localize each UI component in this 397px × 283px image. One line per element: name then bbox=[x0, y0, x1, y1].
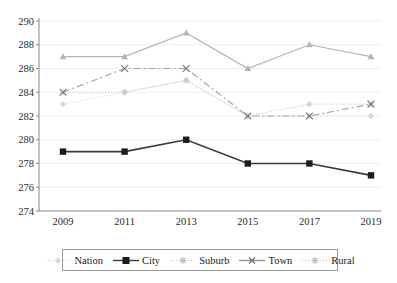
x-tick-label: 2017 bbox=[299, 216, 320, 227]
x-tick-label: 2009 bbox=[53, 216, 74, 227]
data-point-square bbox=[121, 148, 127, 154]
legend-item-rural[interactable]: Rural bbox=[297, 255, 359, 266]
y-tick-label: 280 bbox=[18, 134, 34, 145]
plot-area: 290288286284282280278276274 200920112013… bbox=[0, 0, 397, 240]
gridlines bbox=[39, 21, 381, 187]
legend-swatch-city bbox=[113, 255, 139, 266]
y-axis-ticks: 290288286284282280278276274 bbox=[18, 16, 39, 217]
data-point-square bbox=[245, 160, 251, 166]
legend-item-city[interactable]: City bbox=[108, 255, 165, 266]
x-tick-label: 2011 bbox=[114, 216, 135, 227]
y-tick-label: 290 bbox=[18, 16, 34, 27]
data-point-diamond bbox=[368, 113, 374, 119]
y-tick-label: 274 bbox=[18, 206, 35, 217]
y-tick-label: 284 bbox=[18, 87, 35, 98]
series-line-city bbox=[63, 140, 371, 176]
legend-item-suburb[interactable]: Suburb bbox=[165, 255, 234, 266]
x-tick-label: 2015 bbox=[237, 216, 258, 227]
chart-legend: Nation City Suburb bbox=[62, 249, 338, 271]
data-point-square bbox=[60, 148, 66, 154]
legend-label-city: City bbox=[142, 255, 160, 266]
series-line-rural bbox=[63, 33, 371, 69]
legend-swatch-nation bbox=[45, 255, 71, 266]
legend-label-rural: Rural bbox=[331, 255, 354, 266]
data-point-square bbox=[368, 172, 374, 178]
legend-label-town: Town bbox=[268, 255, 292, 266]
legend-item-nation[interactable]: Nation bbox=[40, 255, 108, 266]
y-tick-label: 282 bbox=[18, 111, 34, 122]
legend-item-town[interactable]: Town bbox=[234, 255, 297, 266]
series-line-suburb bbox=[63, 80, 371, 116]
data-point-diamond bbox=[60, 101, 66, 107]
legend-swatch-suburb bbox=[170, 255, 196, 266]
x-tick-label: 2013 bbox=[176, 216, 197, 227]
x-axis-ticks: 200920112013201520172019 bbox=[53, 216, 382, 227]
y-tick-label: 278 bbox=[18, 158, 34, 169]
chart-canvas: 290288286284282280278276274 200920112013… bbox=[0, 0, 397, 240]
line-chart: 290288286284282280278276274 200920112013… bbox=[0, 0, 397, 283]
series-lines bbox=[63, 33, 371, 176]
data-point-star bbox=[183, 77, 189, 83]
legend-label-nation: Nation bbox=[74, 255, 103, 266]
data-point-triangle bbox=[183, 29, 190, 35]
legend-label-suburb: Suburb bbox=[199, 255, 229, 266]
y-tick-label: 288 bbox=[18, 39, 34, 50]
data-point-square bbox=[306, 160, 312, 166]
y-tick-label: 286 bbox=[18, 63, 34, 74]
data-point-star bbox=[121, 89, 127, 95]
x-tick-label: 2019 bbox=[361, 216, 382, 227]
data-point-square bbox=[183, 137, 189, 143]
legend-swatch-rural bbox=[302, 255, 328, 266]
data-point-star bbox=[306, 101, 312, 107]
legend-swatch-town bbox=[239, 255, 265, 266]
y-tick-label: 276 bbox=[18, 182, 34, 193]
